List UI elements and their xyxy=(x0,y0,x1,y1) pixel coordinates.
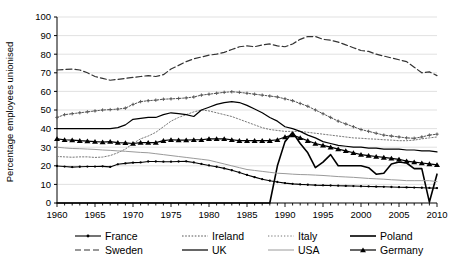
data-point-marker xyxy=(56,165,58,167)
data-point-marker xyxy=(238,171,240,173)
x-axis-tick-label: 2010 xyxy=(426,209,447,220)
data-point-marker xyxy=(79,166,81,168)
data-point-marker xyxy=(94,165,96,167)
y-axis-tick-label: 10 xyxy=(40,179,51,190)
data-point-marker xyxy=(162,161,164,163)
data-point-marker xyxy=(253,176,255,178)
data-point-marker xyxy=(208,164,210,166)
data-point-marker xyxy=(139,161,141,163)
legend-item-label: Italy xyxy=(298,230,318,242)
data-point-marker xyxy=(147,160,149,162)
x-axis-tick-label: 2000 xyxy=(350,209,371,220)
data-point-marker xyxy=(383,186,385,188)
data-point-marker xyxy=(177,160,179,162)
data-point-marker xyxy=(215,166,217,168)
legend-item-label: Poland xyxy=(380,230,413,242)
data-point-marker xyxy=(223,167,225,169)
data-point-marker xyxy=(124,162,126,164)
y-axis-tick-label: 20 xyxy=(40,160,51,171)
line-chart: 0102030405060708090100 19601965197019751… xyxy=(0,0,449,264)
y-axis-title: Percentage employees unionised xyxy=(4,42,15,182)
data-point-marker xyxy=(261,178,263,180)
data-point-marker xyxy=(155,160,157,162)
data-point-marker xyxy=(421,187,423,189)
data-point-marker xyxy=(132,161,134,163)
data-point-marker xyxy=(246,174,248,176)
data-point-marker xyxy=(337,185,339,187)
data-point-marker xyxy=(360,185,362,187)
legend-item-label: Sweden xyxy=(105,244,143,256)
data-point-marker xyxy=(398,186,400,188)
legend-item-label: Germany xyxy=(380,244,424,256)
data-point-marker xyxy=(436,187,438,189)
data-point-marker xyxy=(291,183,293,185)
x-axis-tick-label: 1995 xyxy=(312,209,333,220)
y-axis-tick-label: 70 xyxy=(40,67,51,78)
data-point-marker xyxy=(390,186,392,188)
data-point-marker xyxy=(314,184,316,186)
legend-item-label: UK xyxy=(212,244,227,256)
y-axis-tick-label: 90 xyxy=(40,30,51,41)
data-point-marker xyxy=(299,183,301,185)
y-axis-tick-label: 40 xyxy=(40,123,51,134)
data-point-marker xyxy=(345,185,347,187)
y-axis-tick-label: 30 xyxy=(40,142,51,153)
x-axis-tick-label: 1980 xyxy=(198,209,219,220)
x-axis-tick-label: 1960 xyxy=(46,209,67,220)
x-axis-tick-label: 1985 xyxy=(236,209,257,220)
data-point-marker xyxy=(375,185,377,187)
legend-item-label: France xyxy=(105,230,138,242)
x-axis-tick-label: 1970 xyxy=(122,209,143,220)
y-axis-tick-label: 60 xyxy=(40,86,51,97)
data-point-marker xyxy=(276,181,278,183)
data-point-marker xyxy=(86,165,88,167)
data-point-marker xyxy=(170,161,172,163)
y-axis-tick-label: 80 xyxy=(40,49,51,60)
data-point-marker xyxy=(367,185,369,187)
x-axis-tick-label: 1975 xyxy=(160,209,181,220)
legend-swatch-marker xyxy=(87,235,90,238)
data-point-marker xyxy=(322,184,324,186)
data-point-marker xyxy=(428,187,430,189)
x-axis-tick-label: 1990 xyxy=(274,209,295,220)
data-point-marker xyxy=(413,186,415,188)
data-point-marker xyxy=(101,165,103,167)
data-point-marker xyxy=(329,184,331,186)
data-point-marker xyxy=(269,180,271,182)
data-point-marker xyxy=(307,184,309,186)
y-axis-tick-label: 100 xyxy=(35,11,51,22)
x-axis-tick-label: 2005 xyxy=(388,209,409,220)
data-point-marker xyxy=(193,161,195,163)
plot-background xyxy=(0,0,449,264)
y-axis-tick-label: 50 xyxy=(40,104,51,115)
data-point-marker xyxy=(117,163,119,165)
chart-container: 0102030405060708090100 19601965197019751… xyxy=(0,0,449,264)
legend-item-label: Ireland xyxy=(212,230,244,242)
data-point-marker xyxy=(231,169,233,171)
data-point-marker xyxy=(109,166,111,168)
data-point-marker xyxy=(63,165,65,167)
data-point-marker xyxy=(185,160,187,162)
legend-item-label: USA xyxy=(298,244,320,256)
data-point-marker xyxy=(352,185,354,187)
data-point-marker xyxy=(71,166,73,168)
data-point-marker xyxy=(405,186,407,188)
y-axis-tick-label: 0 xyxy=(46,197,51,208)
y-axis-title-label: Percentage employees unionised xyxy=(4,42,15,182)
data-point-marker xyxy=(200,163,202,165)
x-axis-tick-label: 1965 xyxy=(84,209,105,220)
data-point-marker xyxy=(284,182,286,184)
